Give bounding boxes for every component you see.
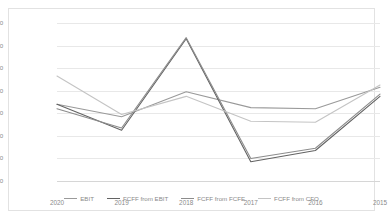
legend-item[interactable]: FCFF from FCFE — [181, 195, 245, 202]
legend-label: FCFF from FCFE — [197, 195, 245, 202]
series-line — [57, 38, 380, 159]
chart-container: $100,000$90,000$80,000$70,000$60,000$50,… — [8, 8, 375, 211]
legend-label: EBIT — [80, 195, 94, 202]
legend-label: FCFF from EBIT — [123, 195, 168, 202]
legend-swatch-icon — [64, 198, 77, 200]
legend-swatch-icon — [258, 198, 271, 200]
y-axis-tick-label: $60,000 — [0, 109, 3, 116]
y-axis-tick-label: $80,000 — [0, 64, 3, 71]
series-line — [57, 87, 380, 116]
series-lines — [57, 23, 380, 181]
y-axis-tick-label: $50,000 — [0, 132, 3, 139]
legend-item[interactable]: FCFF from CFO — [258, 195, 319, 202]
legend-item[interactable]: EBIT — [64, 195, 94, 202]
y-axis-tick-label: $30,000 — [0, 177, 3, 184]
chart-legend: EBITFCFF from EBITFCFF from FCFEFCFF fro… — [9, 195, 374, 202]
plot-area: $100,000$90,000$80,000$70,000$60,000$50,… — [57, 23, 380, 181]
y-axis-tick-label: $70,000 — [0, 87, 3, 94]
legend-swatch-icon — [107, 198, 120, 200]
y-axis-tick-label: $40,000 — [0, 154, 3, 161]
y-axis-tick-label: $90,000 — [0, 42, 3, 49]
y-axis-tick-label: $100,000 — [0, 19, 3, 26]
legend-swatch-icon — [181, 198, 194, 200]
legend-item[interactable]: FCFF from EBIT — [107, 195, 168, 202]
gridline — [57, 181, 380, 182]
legend-label: FCFF from CFO — [274, 195, 319, 202]
series-line — [57, 39, 380, 162]
